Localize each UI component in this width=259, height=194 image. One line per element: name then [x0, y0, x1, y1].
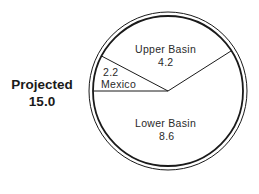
- slice-label-mexico: Mexico: [101, 78, 136, 90]
- slice-value-lower-basin: 8.6: [159, 130, 175, 142]
- slice-label-upper-basin: Upper Basin: [135, 43, 196, 55]
- slice-label-lower-basin: Lower Basin: [135, 117, 196, 129]
- pie-chart: [0, 0, 259, 194]
- slice-value-upper-basin: 4.2: [158, 56, 174, 68]
- slice-value-mexico: 2.2: [103, 66, 119, 78]
